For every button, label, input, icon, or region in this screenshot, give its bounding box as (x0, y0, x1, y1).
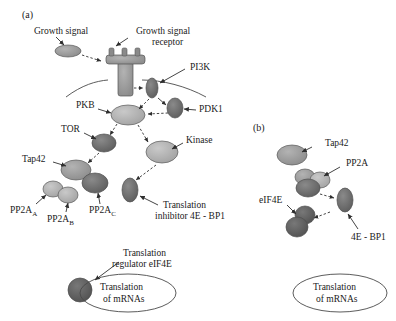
pathway-diagram-svg (0, 0, 396, 321)
label-pp2a-b: PP2AB (47, 214, 74, 229)
growth-signal-receptor-shape (106, 48, 145, 96)
label-pp2a-c: PP2AC (89, 205, 116, 220)
label-4e-bp1-line1: Translation (163, 200, 206, 211)
label-pp2a-a: PP2AA (10, 205, 37, 220)
label-growth-signal-receptor-line2: receptor (152, 37, 183, 48)
panel-label-a: (a) (22, 9, 33, 20)
label-b-4e-bp1: 4E - BP1 (351, 232, 386, 243)
label-pp2a-c-base: PP2A (89, 205, 111, 215)
label-pp2a-b-sub: B (69, 219, 74, 227)
label-eif4e-line1: Translation (123, 248, 166, 259)
outcome-ellipse-b (293, 274, 387, 312)
node-b-pp2a-bottom (296, 179, 320, 197)
label-growth-signal: Growth signal (34, 26, 88, 37)
node-eif4e (68, 278, 92, 302)
label-4e-bp1-line2: inhibitor 4E - BP1 (155, 211, 225, 222)
label-pp2a-a-sub: A (32, 210, 37, 218)
outcome-a-line2: of mRNAs (103, 294, 144, 305)
label-pp2a-c-sub: C (111, 210, 116, 218)
label-tor: TOR (61, 124, 80, 135)
node-pp2a-c (82, 173, 108, 193)
membrane-arcs (66, 80, 206, 97)
label-growth-signal-receptor-line1: Growth signal (136, 26, 190, 37)
node-tor (92, 134, 116, 152)
panel-label-b: (b) (253, 122, 265, 133)
label-kinase: Kinase (186, 135, 212, 146)
node-pdk1 (167, 98, 183, 118)
outcome-a-line1: Translation (100, 282, 143, 293)
node-pi3k (146, 78, 158, 98)
node-b-4e-bp1 (337, 188, 353, 212)
label-tap42: Tap42 (22, 154, 46, 165)
label-b-eif4e: eIF4E (259, 195, 282, 206)
node-kinase (146, 141, 178, 163)
node-pp2a-b (58, 187, 78, 203)
label-eif4e-line2: regulator eIF4E (112, 259, 172, 270)
node-pkb (111, 105, 145, 125)
label-b-tap42: Tap42 (325, 138, 349, 149)
label-b-pp2a: PP2A (346, 158, 368, 169)
outcome-b-line2: of mRNAs (316, 294, 357, 305)
node-growth-signal (55, 45, 81, 57)
node-b-tap42 (277, 145, 307, 165)
label-pkb: PKB (76, 100, 94, 111)
outcome-b-line1: Translation (313, 282, 356, 293)
node-4e-bp1 (122, 178, 138, 202)
node-b-eif4e-lower (286, 217, 308, 237)
outcome-ellipse-a (80, 274, 176, 312)
label-pi3k: PI3K (190, 62, 210, 73)
label-pp2a-b-base: PP2A (47, 214, 69, 224)
figure-canvas: (a) (b) Growth signal Growth signal rece… (0, 0, 396, 321)
label-pp2a-a-base: PP2A (10, 205, 32, 215)
label-pdk1: PDK1 (199, 104, 223, 115)
